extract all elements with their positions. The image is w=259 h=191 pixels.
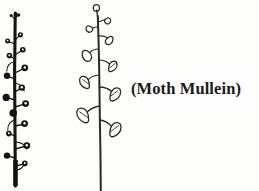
flowering-spike: [3, 13, 31, 187]
flower-bud: [3, 94, 10, 101]
leaf-heart: [109, 61, 117, 71]
flower-bud: [10, 14, 13, 17]
flower-bud: [17, 13, 20, 16]
leaf: [105, 18, 111, 24]
leaf-heart: [110, 88, 121, 101]
flower-bud: [9, 109, 17, 117]
flower-bud: [4, 73, 10, 79]
leaf-heart: [77, 108, 89, 123]
leaf-heart: [110, 123, 121, 137]
figure-panel: (Moth Mullein): [0, 0, 259, 191]
leaf-heart: [80, 76, 90, 88]
leaf: [86, 26, 93, 32]
flower-bud: [4, 152, 10, 158]
leafy-main-stem: [98, 16, 101, 191]
caption-moth-mullein: (Moth Mullein): [131, 79, 259, 99]
plant-illustration: [0, 0, 140, 191]
spike-stem-base: [13, 160, 18, 186]
leafy-stem: [77, 5, 121, 191]
